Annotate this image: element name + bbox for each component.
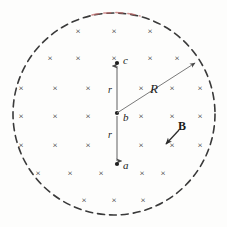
field-into-page-icon: ×: [75, 27, 80, 36]
field-into-page-icon: ×: [138, 141, 143, 150]
field-into-page-icon: ×: [47, 54, 52, 63]
point-label-a: a: [123, 160, 129, 171]
field-into-page-icon: ×: [85, 112, 90, 121]
field-label-b: B: [178, 120, 186, 132]
field-into-page-icon: ×: [81, 196, 86, 205]
field-into-page-icon: ×: [197, 112, 202, 121]
field-into-page-icon: ×: [18, 141, 23, 150]
field-into-page-icon: ×: [52, 112, 57, 121]
point-label-b: b: [123, 112, 129, 123]
field-region-boundary: [13, 13, 215, 215]
field-into-page-icon: ×: [169, 84, 174, 93]
field-into-page-icon: ×: [75, 54, 80, 63]
distance-label-r-lower: r: [108, 130, 112, 140]
field-into-page-icon: ×: [197, 84, 202, 93]
point-label-c: c: [123, 55, 128, 66]
field-into-page-icon: ×: [169, 141, 174, 150]
field-into-page-icon: ×: [147, 54, 152, 63]
field-into-page-icon: ×: [140, 196, 145, 205]
field-into-page-icon: ×: [67, 169, 72, 178]
field-into-page-icon: ×: [52, 84, 57, 93]
point-dot-a: [115, 162, 119, 166]
field-into-page-icon: ×: [18, 84, 23, 93]
field-into-page-icon: ×: [85, 84, 90, 93]
magnetic-field-figure: ×××××××××××××××××××××××××××××××××× c b a…: [0, 0, 227, 227]
field-into-page-icon: ×: [111, 27, 116, 36]
field-into-page-icon: ×: [138, 112, 143, 121]
field-into-page-icon: ×: [169, 112, 174, 121]
field-into-page-icon: ×: [111, 54, 116, 63]
field-into-page-icon: ×: [197, 141, 202, 150]
field-into-page-icon: ×: [52, 141, 57, 150]
field-into-page-icon: ×: [139, 169, 144, 178]
field-into-page-icon: ×: [160, 169, 165, 178]
field-into-page-icon: ×: [138, 84, 143, 93]
field-into-page-icon: ×: [147, 27, 152, 36]
radius-label: R: [150, 82, 158, 95]
field-into-page-icon: ×: [18, 112, 23, 121]
field-into-page-icon: ×: [85, 141, 90, 150]
field-into-page-icon: ×: [35, 169, 40, 178]
field-into-page-icon: ×: [174, 54, 179, 63]
field-into-page-icon: ×: [98, 169, 103, 178]
field-into-page-icon: ×: [111, 196, 116, 205]
distance-label-r-upper: r: [108, 85, 112, 95]
